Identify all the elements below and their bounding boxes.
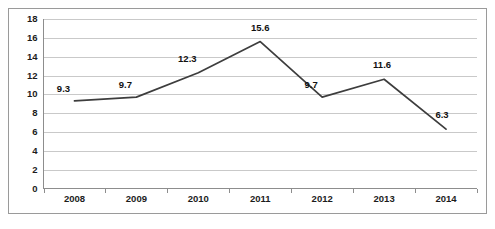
data-point-labels: 9.39.712.315.69.711.66.3	[57, 22, 449, 121]
y-axis-tick-label: 16	[27, 32, 38, 43]
y-axis-tick-label: 4	[32, 145, 38, 156]
y-axis-tick-label: 18	[27, 13, 38, 24]
data-point-label: 15.6	[251, 22, 270, 33]
data-point-label: 6.3	[435, 109, 448, 120]
y-axis-tick-label: 6	[32, 126, 37, 137]
y-axis-tick-label: 8	[32, 107, 37, 118]
x-axis-tick-label: 2011	[250, 193, 271, 204]
x-axis-tick-labels: 2008200920102011201220132014	[64, 193, 457, 204]
data-point-label: 9.7	[119, 79, 132, 90]
data-point-label: 9.3	[57, 83, 70, 94]
y-axis-tick-label: 2	[32, 164, 37, 175]
x-axis-tick-label: 2010	[188, 193, 209, 204]
data-point-label: 9.7	[305, 79, 318, 90]
x-axis-tick-label: 2008	[64, 193, 85, 204]
x-axis-tick-label: 2014	[435, 193, 457, 204]
data-point-label: 11.6	[373, 59, 391, 70]
y-axis-tick-label: 12	[27, 70, 38, 81]
y-axis-tick-label: 0	[32, 183, 37, 194]
y-axis-tick-label: 10	[27, 88, 38, 99]
x-axis-tick-label: 2012	[312, 193, 333, 204]
y-axis-tick-labels: 024681012141618	[27, 13, 38, 194]
x-axis-tick-label: 2009	[126, 193, 147, 204]
x-axis-tick-label: 2013	[374, 193, 395, 204]
line-chart: 024681012141618 200820092010201120122013…	[0, 0, 495, 229]
y-axis-tick-label: 14	[27, 51, 38, 62]
data-point-label: 12.3	[178, 53, 197, 64]
